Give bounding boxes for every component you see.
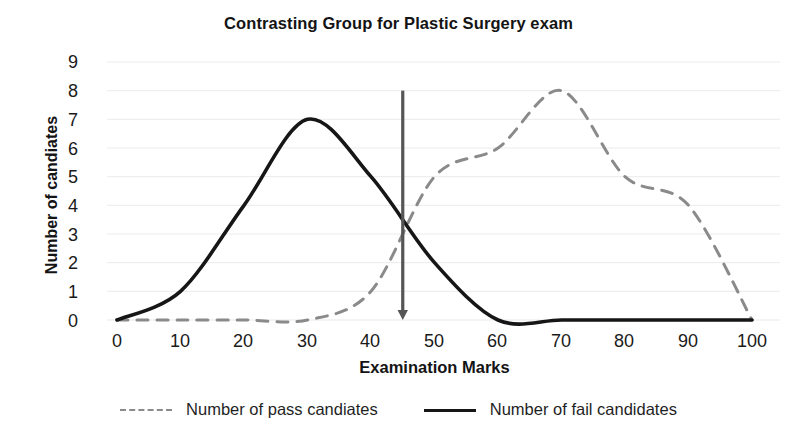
arrow-head — [398, 310, 408, 320]
legend-entry-pass[interactable]: Number of pass candiates — [120, 400, 378, 419]
gridlines — [107, 62, 780, 320]
legend-entry-fail[interactable]: Number of fail candidates — [424, 400, 677, 419]
legend-label-fail: Number of fail candidates — [490, 400, 677, 419]
legend-label-pass: Number of pass candiates — [186, 400, 378, 419]
x-axis-title: Examination Marks — [117, 358, 752, 377]
chart-legend: Number of pass candiates Number of fail … — [0, 400, 797, 419]
chart-container: Contrasting Group for Plastic Surgery ex… — [0, 0, 797, 444]
series-line-fail — [117, 119, 752, 324]
legend-dashed-line-icon — [120, 405, 172, 415]
series-lines — [117, 90, 752, 324]
legend-solid-line-icon — [424, 405, 476, 415]
series-line-pass — [117, 90, 752, 322]
plot-area — [0, 0, 797, 444]
